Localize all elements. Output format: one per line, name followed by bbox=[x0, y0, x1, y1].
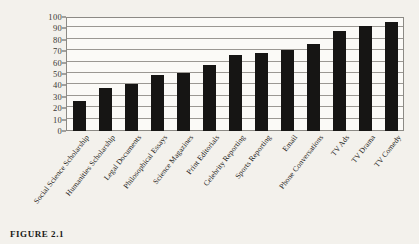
bar bbox=[99, 88, 112, 131]
bar-series bbox=[66, 17, 404, 131]
x-axis-label: Email bbox=[281, 133, 300, 153]
bar bbox=[281, 50, 294, 131]
x-axis-label: TV Ads bbox=[329, 133, 351, 158]
y-axis-tick-label: 50 bbox=[53, 70, 62, 79]
y-axis-tick-label: 10 bbox=[53, 115, 62, 124]
y-axis-tick-label: 70 bbox=[53, 47, 62, 56]
y-axis: 0102030405060708090100 bbox=[38, 10, 66, 138]
x-axis-label-text: TV Ads bbox=[329, 133, 351, 158]
x-axis-label-text: Email bbox=[281, 133, 300, 153]
bar bbox=[203, 65, 216, 131]
y-axis-tick-label: 100 bbox=[48, 13, 62, 22]
bar bbox=[73, 101, 86, 131]
bar bbox=[125, 84, 138, 131]
figure-2-1: 0102030405060708090100 Social Science Sc… bbox=[0, 0, 419, 244]
y-axis-tick-label: 60 bbox=[53, 58, 62, 67]
y-axis-tick-label: 40 bbox=[53, 81, 62, 90]
figure-caption: FIGURE 2.1 bbox=[10, 229, 64, 239]
bar bbox=[151, 75, 164, 131]
bar bbox=[255, 53, 268, 131]
bar bbox=[385, 22, 398, 131]
bar bbox=[359, 26, 372, 131]
bar bbox=[177, 73, 190, 131]
y-axis-tick-label: 90 bbox=[53, 24, 62, 33]
y-axis-tick-label: 30 bbox=[53, 93, 62, 102]
bar bbox=[229, 55, 242, 131]
bar bbox=[307, 44, 320, 131]
bar bbox=[333, 31, 346, 131]
y-axis-tick-label: 20 bbox=[53, 104, 62, 113]
x-axis-labels: Social Science ScholarshipHumanities Sch… bbox=[66, 133, 404, 223]
x-axis-label: TV Drama bbox=[349, 133, 377, 165]
y-axis-tick-label: 80 bbox=[53, 36, 62, 45]
x-axis-label-text: TV Drama bbox=[349, 133, 377, 165]
